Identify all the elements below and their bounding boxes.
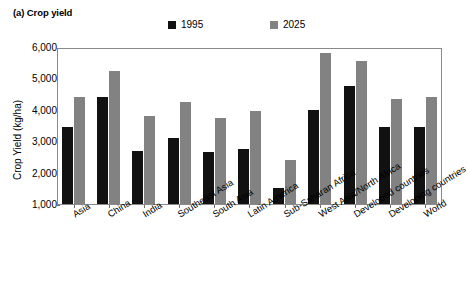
x-axis-tick-label: World (422, 198, 448, 220)
x-axis-tick-label: India (141, 200, 164, 219)
crop-yield-figure: (a) Crop yield 1995 2025 Crop Yield (kg/… (0, 0, 467, 293)
x-axis-tick-labels: AsiaChinaIndiaSoutheast AsiaSouth AsiaLa… (0, 0, 467, 293)
x-axis-tick-label: Asia (71, 201, 92, 219)
x-axis-tick-label: China (106, 198, 132, 220)
